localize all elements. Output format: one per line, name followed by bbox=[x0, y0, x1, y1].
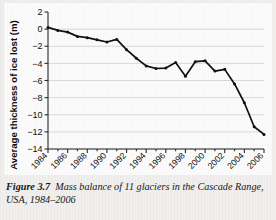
svg-text:−8: −8 bbox=[32, 93, 42, 103]
svg-text:1990: 1990 bbox=[88, 150, 109, 171]
svg-text:−2: −2 bbox=[32, 41, 42, 51]
svg-text:2: 2 bbox=[37, 7, 42, 17]
x-tick-labels: 1984198619881990199219941996199820002002… bbox=[29, 150, 266, 171]
svg-text:1986: 1986 bbox=[48, 150, 69, 171]
svg-text:1992: 1992 bbox=[107, 150, 128, 171]
svg-text:1994: 1994 bbox=[127, 150, 148, 171]
svg-text:−4: −4 bbox=[32, 59, 42, 69]
svg-text:2002: 2002 bbox=[206, 150, 227, 171]
svg-text:1996: 1996 bbox=[147, 150, 168, 171]
svg-text:−12: −12 bbox=[27, 127, 42, 137]
svg-text:1988: 1988 bbox=[68, 150, 89, 171]
chart-panel: 20−2−4−6−8−10−12−14 19841986198819901992… bbox=[4, 3, 272, 175]
svg-text:2000: 2000 bbox=[186, 150, 207, 171]
y-tick-labels: 20−2−4−6−8−10−12−14 bbox=[27, 7, 42, 154]
figure-container: 20−2−4−6−8−10−12−14 19841986198819901992… bbox=[0, 0, 276, 220]
figure-caption: Figure 3.7 Mass balance of 11 glaciers i… bbox=[6, 180, 270, 207]
glacier-mass-balance-chart: 20−2−4−6−8−10−12−14 19841986198819901992… bbox=[4, 3, 272, 175]
grid-lines bbox=[48, 29, 264, 149]
svg-text:2006: 2006 bbox=[245, 150, 266, 171]
y-axis bbox=[45, 12, 49, 149]
svg-text:1998: 1998 bbox=[166, 150, 187, 171]
y-axis-title: Average thickness of ice lost (m) bbox=[8, 20, 19, 169]
figure-caption-label: Figure 3.7 bbox=[6, 181, 50, 192]
svg-text:0: 0 bbox=[37, 24, 42, 34]
svg-text:−10: −10 bbox=[27, 110, 42, 120]
svg-text:−6: −6 bbox=[32, 76, 42, 86]
svg-text:2004: 2004 bbox=[225, 150, 246, 171]
